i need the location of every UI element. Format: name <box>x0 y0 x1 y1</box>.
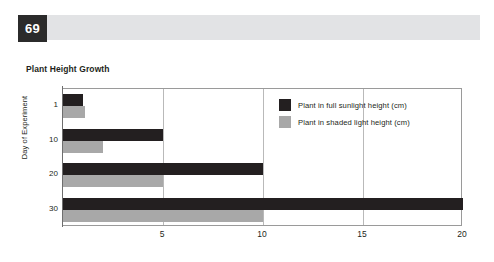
bar-1-series-2 <box>63 106 85 118</box>
bar-30-series-1 <box>63 198 463 210</box>
bar-20-series-2 <box>63 175 163 187</box>
legend-label-1: Plant in full sunlight height (cm) <box>298 101 407 110</box>
legend-label-2: Plant in shaded light height (cm) <box>298 118 410 127</box>
y-axis-ticks: 1102030 <box>22 88 58 226</box>
legend-item-1: Plant in full sunlight height (cm) <box>279 99 410 111</box>
bar-20-series-1 <box>63 163 263 175</box>
legend-swatch-icon-1 <box>279 99 291 111</box>
x-tick-label-20: 20 <box>457 230 466 239</box>
chart-title: Plant Height Growth <box>26 64 110 74</box>
chart-legend: Plant in full sunlight height (cm)Plant … <box>279 99 410 133</box>
x-axis-ticks: 5101520 <box>62 230 462 244</box>
bar-chart: Plant Height Growth Day of Experiment 11… <box>0 0 494 262</box>
y-tick-label-30: 30 <box>49 205 58 213</box>
y-tick-label-10: 10 <box>49 136 58 144</box>
legend-swatch-icon-2 <box>279 116 291 128</box>
bar-10-series-2 <box>63 141 103 153</box>
x-tick-label-5: 5 <box>160 230 165 239</box>
bar-30-series-2 <box>63 210 263 222</box>
x-tick-label-10: 10 <box>257 230 266 239</box>
bar-1-series-1 <box>63 94 83 106</box>
page: 69 Plant Height Growth Day of Experiment… <box>0 0 494 262</box>
x-tick-label-15: 15 <box>357 230 366 239</box>
legend-item-2: Plant in shaded light height (cm) <box>279 116 410 128</box>
bar-10-series-1 <box>63 129 163 141</box>
y-axis-line <box>62 86 63 227</box>
y-tick-label-20: 20 <box>49 170 58 178</box>
y-tick-label-1: 1 <box>54 101 58 109</box>
